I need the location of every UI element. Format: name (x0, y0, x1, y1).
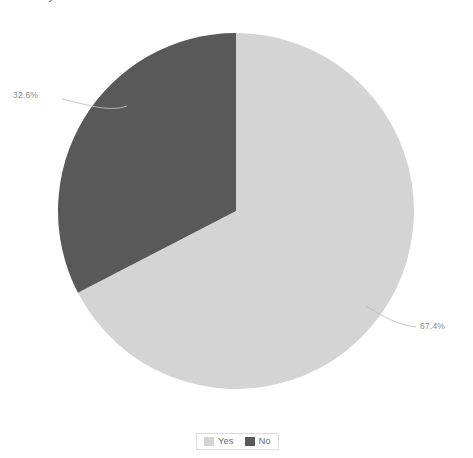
pie-chart-svg (0, 0, 473, 412)
chart-legend: Yes No (196, 433, 279, 450)
legend-swatch-yes (204, 437, 214, 446)
pie-chart-plot-area: 32.6% 67.4% (0, 0, 473, 412)
legend-item-no[interactable]: No (245, 436, 271, 446)
legend-item-yes[interactable]: Yes (204, 436, 234, 446)
slice-label-yes: 67.4% (420, 321, 445, 331)
legend-label-no: No (259, 436, 271, 446)
slice-label-no: 32.6% (13, 90, 38, 100)
legend-label-yes: Yes (218, 436, 234, 446)
legend-swatch-no (245, 437, 255, 446)
